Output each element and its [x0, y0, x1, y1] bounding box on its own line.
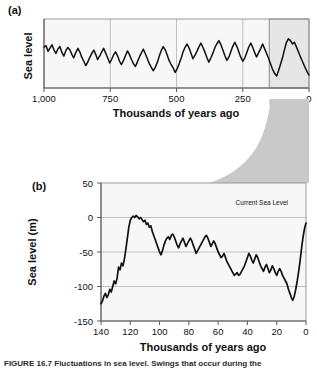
- panel-b-ytick-0: 50: [82, 178, 93, 189]
- sea-level-figure: (a) Sea level 1,000 750: [0, 0, 317, 368]
- panel-b-ytick-1: 0: [88, 212, 93, 223]
- panel-b: (b) Sea level (m): [26, 178, 309, 354]
- current-sea-level-annotation: Current Sea Level: [236, 199, 289, 206]
- panel-a-xtick-1: 750: [102, 93, 118, 104]
- panel-b-xtick-7: 0: [303, 326, 308, 337]
- panel-b-ytick-3: -100: [74, 281, 93, 292]
- panel-b-xtick-1: 120: [122, 326, 138, 337]
- panel-b-xtick-0: 140: [93, 326, 109, 337]
- panel-a-tick-marks: [44, 88, 309, 92]
- panel-b-tag: (b): [32, 180, 46, 192]
- panel-a-tag: (a): [8, 4, 22, 16]
- panel-a-ylabel: Sea level: [22, 32, 34, 79]
- panel-a-xtick-3: 250: [235, 93, 251, 104]
- panel-b-xtick-6: 20: [271, 326, 282, 337]
- figure-caption-text: FIGURE 16.7 Fluctuations in sea level. S…: [4, 359, 262, 368]
- panel-b-ytick-labels: 50 0 -50 -100 -150: [74, 178, 93, 327]
- panel-b-xtick-marks: [101, 321, 306, 325]
- panel-a-detail-highlight-box: [269, 19, 309, 88]
- panel-b-ytick-4: -150: [74, 316, 93, 327]
- panel-a-xtick-0: 1,000: [32, 93, 56, 104]
- panel-b-xlabel: Thousands of years ago: [140, 341, 267, 353]
- panel-b-xtick-5: 40: [242, 326, 253, 337]
- panel-b-xtick-3: 80: [184, 326, 195, 337]
- panel-b-ytick-marks: [97, 183, 101, 321]
- panel-b-ytick-2: -50: [79, 247, 93, 258]
- panel-b-xtick-labels: 140 120 100 80 60 40 20 0: [93, 326, 309, 337]
- panel-b-xtick-4: 60: [213, 326, 224, 337]
- panel-b-ylabel: Sea level (m): [26, 218, 38, 286]
- panel-b-xtick-2: 100: [152, 326, 168, 337]
- figure-caption: FIGURE 16.7 Fluctuations in sea level. S…: [4, 359, 262, 368]
